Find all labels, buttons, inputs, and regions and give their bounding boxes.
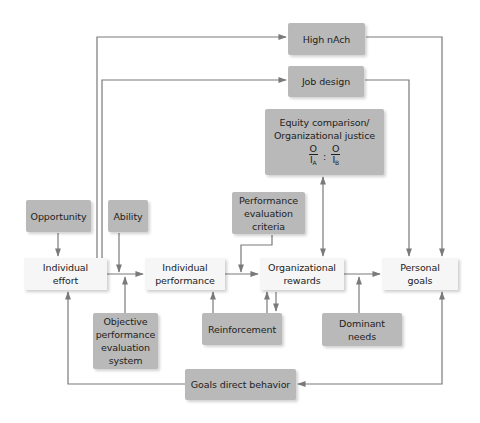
node-dominant-needs: Dominant needs <box>322 313 402 346</box>
node-high-nach: High nAch <box>288 23 365 55</box>
node-personal-goals: Personal goals <box>382 258 458 290</box>
node-goals-direct-behavior: Goals direct behavior <box>185 369 296 400</box>
node-label: High nAch <box>303 33 351 46</box>
node-individual-performance: Individual performance <box>145 258 225 290</box>
node-job-design: Job design <box>288 66 364 97</box>
node-label: Goals direct behavior <box>191 378 290 391</box>
node-individual-effort: Individual effort <box>24 258 107 290</box>
ratio-a: O IA <box>309 144 318 168</box>
node-objective-performance-evaluation-system: Objective performance evaluation system <box>93 313 158 369</box>
node-reinforcement: Reinforcement <box>202 313 282 345</box>
node-label: Organizational justice <box>274 129 375 142</box>
ratio-separator: : <box>323 150 326 163</box>
node-label: Ability <box>113 210 142 223</box>
node-label: Equity comparison/ <box>280 116 370 129</box>
node-ability: Ability <box>108 200 148 232</box>
node-organizational-rewards: Organizational rewards <box>260 258 344 290</box>
node-performance-evaluation-criteria: Performance evaluation criteria <box>232 192 305 234</box>
node-equity-comparison: Equity comparison/ Organizational justic… <box>265 109 384 175</box>
node-label: Opportunity <box>31 210 87 223</box>
node-label: Job design <box>302 75 350 88</box>
node-opportunity: Opportunity <box>26 200 91 232</box>
equity-ratio: O IA : O IB <box>306 144 344 168</box>
ratio-b: O IB <box>331 144 340 168</box>
node-label: Reinforcement <box>208 323 276 336</box>
